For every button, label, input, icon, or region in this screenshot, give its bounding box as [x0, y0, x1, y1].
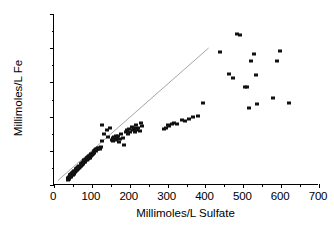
x-axis-title: Millimoles/L Sulfate: [53, 207, 318, 219]
x-axis-minor-tick: [224, 184, 225, 187]
data-point: [275, 60, 279, 63]
x-axis-minor-tick: [149, 184, 150, 187]
data-point: [227, 72, 231, 75]
data-point: [196, 114, 200, 117]
data-point: [183, 120, 187, 123]
data-point: [99, 146, 103, 149]
data-points-layer: [54, 14, 318, 184]
x-axis-tick-label: 600: [260, 190, 300, 202]
data-point: [218, 50, 222, 53]
x-axis-tick: [281, 184, 282, 188]
x-axis-tick-label: 0: [33, 190, 73, 202]
data-point: [121, 137, 125, 140]
x-axis-minor-tick: [187, 184, 188, 187]
x-axis-tick: [168, 184, 169, 188]
data-point: [271, 97, 275, 100]
data-point: [133, 131, 137, 134]
data-point: [255, 102, 259, 105]
data-point: [245, 85, 249, 88]
data-point: [122, 143, 126, 146]
scatter-chart-figure: 0501001502002500100200300400500600700 Mi…: [0, 0, 334, 232]
x-axis-minor-tick: [262, 184, 263, 187]
x-axis-minor-tick: [300, 184, 301, 187]
data-point: [140, 125, 144, 128]
x-axis-tick-label: 500: [222, 190, 262, 202]
data-point: [175, 123, 179, 126]
x-axis-tick-label: 200: [109, 190, 149, 202]
data-point: [238, 33, 242, 36]
data-point: [254, 73, 258, 76]
x-axis-minor-tick: [73, 184, 74, 187]
x-axis-tick: [319, 184, 320, 188]
x-axis-minor-tick: [111, 184, 112, 187]
data-point: [100, 140, 104, 143]
x-axis-tick: [54, 184, 55, 188]
plot-area: [53, 14, 318, 185]
data-point: [201, 101, 205, 104]
data-point: [247, 107, 251, 110]
data-point: [108, 127, 112, 130]
data-point: [252, 53, 256, 56]
data-point: [249, 60, 253, 63]
data-point: [287, 101, 291, 104]
x-axis-tick: [205, 184, 206, 188]
y-axis-title: Millimoles/L Fe: [12, 18, 24, 178]
x-axis-tick-label: 300: [147, 190, 187, 202]
data-point: [100, 124, 104, 127]
x-axis-tick-label: 700: [298, 190, 334, 202]
x-axis-tick: [130, 184, 131, 188]
data-point: [278, 49, 282, 52]
data-point: [138, 129, 142, 132]
data-point: [191, 116, 195, 119]
x-axis-tick: [92, 184, 93, 188]
x-axis-tick: [243, 184, 244, 188]
data-point: [187, 117, 191, 120]
x-axis-tick-label: 100: [71, 190, 111, 202]
x-axis-tick-label: 400: [184, 190, 224, 202]
data-point: [117, 140, 121, 143]
data-point: [119, 133, 123, 136]
data-point: [231, 77, 235, 80]
